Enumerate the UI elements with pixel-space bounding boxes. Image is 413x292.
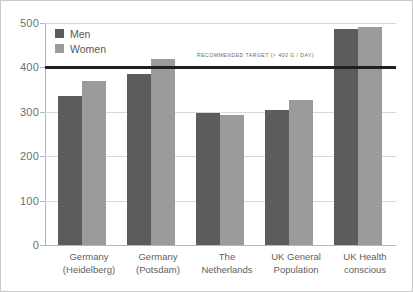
x-label-uk-health-conscious: UK Health conscious [324, 251, 406, 276]
chart-container: 500 400 300 200 100 0 [0, 0, 413, 292]
bar-men-germany-potsdam [127, 74, 151, 245]
legend-label-women: Women [70, 43, 106, 55]
bar-men-uk-general-population [265, 110, 289, 245]
legend-label-men: Men [70, 28, 90, 40]
y-axis-labels: 500 400 300 200 100 0 [1, 1, 39, 292]
y-tick-label-100: 100 [5, 195, 39, 207]
legend-swatch-women-icon [55, 44, 64, 53]
legend-swatch-men-icon [55, 29, 64, 38]
chart-legend: Men Women [55, 26, 106, 56]
bar-men-uk-health-conscious [334, 29, 358, 245]
y-tick-label-0: 0 [5, 239, 39, 251]
bar-group-uk-health-conscious [334, 23, 384, 245]
bar-women-uk-general-population [289, 100, 313, 245]
y-tick-label-500: 500 [5, 17, 39, 29]
x-axis-line [45, 245, 396, 246]
recommended-target-line [45, 66, 396, 69]
bar-men-germany-heidelberg [58, 96, 82, 245]
y-tick-label-200: 200 [5, 150, 39, 162]
bar-women-germany-potsdam [151, 59, 175, 245]
bar-women-germany-heidelberg [82, 81, 106, 245]
x-label-line-2: conscious [324, 264, 406, 277]
legend-item-women: Women [55, 41, 106, 56]
bar-women-uk-health-conscious [358, 27, 382, 245]
y-tick-label-300: 300 [5, 106, 39, 118]
bar-group-germany-potsdam [127, 23, 177, 245]
bar-men-the-netherlands [196, 113, 220, 245]
y-tick-label-400: 400 [5, 61, 39, 73]
x-label-line-1: UK Health [324, 251, 406, 264]
bar-women-the-netherlands [220, 115, 244, 245]
recommended-target-label: RECOMMENDED TARGET (> 400 G / DAY) [197, 52, 314, 58]
legend-item-men: Men [55, 26, 106, 41]
bar-group-germany-heidelberg [58, 23, 108, 245]
